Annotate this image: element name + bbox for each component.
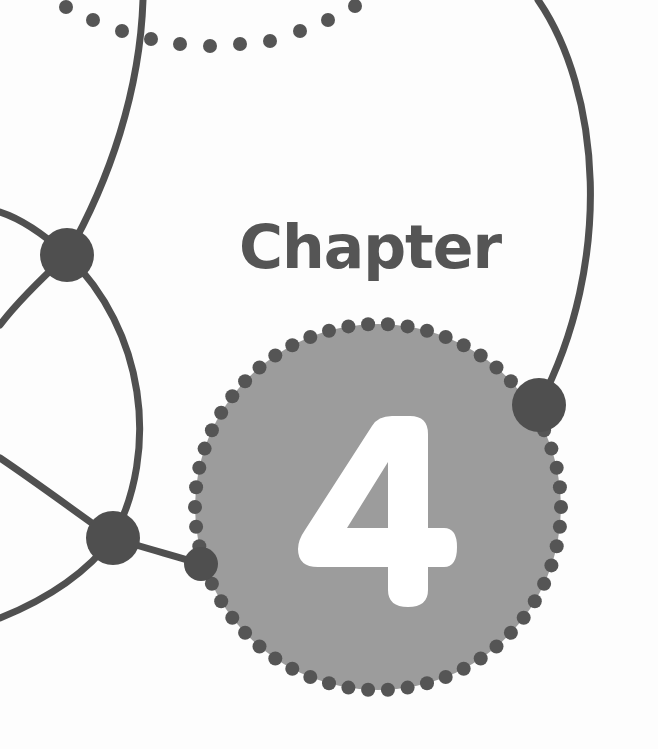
badge-dot [490,361,504,375]
badge-dot [504,626,518,640]
badge-dot [550,539,564,553]
badge-dot [537,577,551,591]
badge-dot [303,670,317,684]
badge-dot [198,442,212,456]
badge-dot [214,406,228,420]
badge-dot [544,442,558,456]
badge-dot [544,558,558,572]
node-badge-left [184,547,218,581]
badge-dot [238,626,252,640]
badge-dot [401,319,415,333]
badge-dot [205,423,219,437]
badge-dot [504,374,518,388]
badge-dot [341,319,355,333]
badge-dot [192,461,206,475]
badge-dot [322,324,336,338]
node-lower-left [86,511,140,565]
chapter-illustration [0,0,658,749]
badge-dot [189,520,203,534]
badge-dot [381,317,395,331]
badge-dot [381,683,395,697]
badge-dot [553,480,567,494]
chapter-title-page: Chapter 4 [0,0,658,749]
badge-dot [361,317,375,331]
node-badge-right [512,378,566,432]
badge-dot [528,594,542,608]
badge-dot [285,662,299,676]
badge-dot [303,330,317,344]
badge-dot [439,330,453,344]
badge-dot [554,500,568,514]
badge-dot [268,349,282,363]
badge-dot [225,389,239,403]
badge-dot [517,611,531,625]
badge-dot [238,374,252,388]
badge-dot [341,681,355,695]
badge-dot [490,640,504,654]
line-upper-to-lower-node [67,255,140,538]
badge-dot [474,349,488,363]
badge-dot [420,324,434,338]
badge-dot [361,683,375,697]
badge-dot [189,480,203,494]
badge-dot [550,461,564,475]
badge-dot [253,640,267,654]
node-upper-left [40,228,94,282]
top-dotted-arc [59,0,362,53]
badge-dot [553,520,567,534]
badge-dot [285,338,299,352]
badge-dot [439,670,453,684]
badge-dot [225,611,239,625]
line-top-to-node [67,0,143,255]
badge-dot [457,662,471,676]
badge-dot [401,681,415,695]
badge-dot [457,338,471,352]
badge-dot [322,676,336,690]
chapter-label: Chapter [220,212,520,282]
badge-dot [420,676,434,690]
line-top-to-badge-right [538,0,590,405]
badge-dot [188,500,202,514]
badge-dot [214,594,228,608]
badge-dot [268,652,282,666]
badge-dot [474,652,488,666]
badge-dot [253,361,267,375]
